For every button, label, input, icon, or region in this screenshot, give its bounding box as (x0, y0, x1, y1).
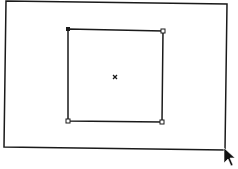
mouse-cursor-icon (224, 148, 235, 166)
drawing-canvas[interactable] (0, 0, 238, 169)
resize-handle-top-left[interactable] (66, 27, 70, 31)
outer-frame (4, 1, 227, 150)
resize-handle-top-right[interactable] (161, 29, 165, 33)
resize-handle-bottom-right[interactable] (160, 120, 164, 124)
resize-handle-bottom-left[interactable] (66, 119, 70, 123)
